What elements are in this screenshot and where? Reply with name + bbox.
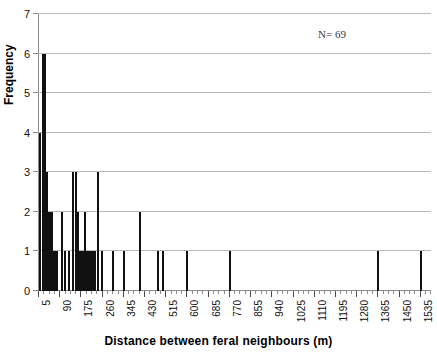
x-axis-tick-minor: [425, 291, 426, 294]
y-axis-tick: [33, 132, 38, 133]
x-axis-label: 1110: [318, 300, 328, 321]
bar: [94, 251, 96, 291]
bar: [61, 212, 63, 291]
x-axis-tick-minor: [346, 291, 347, 294]
x-axis-tick-minor: [112, 291, 113, 294]
x-axis-tick-major: [293, 291, 294, 297]
bar: [68, 251, 70, 291]
bar: [420, 251, 422, 291]
bar: [162, 251, 164, 291]
y-axis-label: 7: [24, 9, 30, 20]
x-axis-tick-minor: [303, 291, 304, 294]
y-axis-tick: [33, 13, 38, 14]
x-axis-tick-major: [420, 291, 421, 297]
bar: [377, 251, 379, 291]
y-axis-label: 3: [24, 167, 30, 178]
x-axis-label: 260: [106, 300, 116, 317]
x-axis-tick-major: [59, 291, 60, 297]
x-axis-tick-minor: [330, 291, 331, 294]
x-axis-tick-minor: [192, 291, 193, 294]
x-axis-tick-minor: [430, 291, 431, 294]
x-axis-tick-minor: [70, 291, 71, 294]
x-axis-tick-minor: [155, 291, 156, 294]
bar: [112, 251, 114, 291]
x-axis-tick-major: [271, 291, 272, 297]
x-axis-title: Distance between feral neighbours (m): [0, 334, 437, 348]
x-axis-tick-minor: [393, 291, 394, 294]
y-axis-tick: [33, 250, 38, 251]
x-axis-tick-major: [80, 291, 81, 297]
x-axis-label: 1195: [339, 300, 349, 322]
bar: [186, 251, 188, 291]
x-axis-tick-minor: [239, 291, 240, 294]
gridline: [38, 92, 431, 93]
y-axis-label: 0: [24, 286, 30, 297]
x-axis-tick-minor: [91, 291, 92, 294]
x-axis-tick-major: [144, 291, 145, 297]
y-axis-label: 1: [24, 246, 30, 257]
x-axis-tick-minor: [287, 291, 288, 294]
x-axis-tick-minor: [255, 291, 256, 294]
x-axis-tick-minor: [367, 291, 368, 294]
x-axis-tick-minor: [213, 291, 214, 294]
x-axis-label: 1535: [424, 300, 434, 322]
x-axis-label: 770: [233, 300, 243, 317]
x-axis-tick-major: [377, 291, 378, 297]
bar: [123, 251, 125, 291]
histogram-chart: 01234567 5901752603454305156006857708559…: [0, 0, 437, 356]
x-axis-tick-minor: [197, 291, 198, 294]
x-axis-tick-major: [399, 291, 400, 297]
x-axis-tick-minor: [107, 291, 108, 294]
x-axis-tick-major: [165, 291, 166, 297]
x-axis-tick-major: [356, 291, 357, 297]
x-axis-tick-minor: [261, 291, 262, 294]
x-axis-tick-minor: [383, 291, 384, 294]
x-axis-label: 1280: [360, 300, 370, 322]
x-axis-tick-major: [102, 291, 103, 297]
x-axis-tick-minor: [266, 291, 267, 294]
bar: [72, 172, 74, 291]
y-axis-label: 4: [24, 127, 30, 138]
x-axis-tick-minor: [409, 291, 410, 294]
bar: [56, 251, 58, 291]
x-axis-tick-minor: [282, 291, 283, 294]
bar: [97, 172, 99, 291]
x-axis-tick-minor: [324, 291, 325, 294]
gridline: [38, 132, 431, 133]
x-axis-tick-minor: [75, 291, 76, 294]
x-axis-tick-major: [123, 291, 124, 297]
x-axis-tick-minor: [414, 291, 415, 294]
x-axis-tick-minor: [176, 291, 177, 294]
x-axis-tick-minor: [181, 291, 182, 294]
y-axis-title: Frequency: [2, 44, 16, 105]
x-axis-tick-minor: [139, 291, 140, 294]
y-axis-tick: [33, 171, 38, 172]
bar: [157, 251, 159, 291]
x-axis-tick-minor: [361, 291, 362, 294]
x-axis-tick-minor: [388, 291, 389, 294]
y-axis-tick: [33, 92, 38, 93]
x-axis-tick-minor: [308, 291, 309, 294]
x-axis-tick-minor: [340, 291, 341, 294]
x-axis-tick-minor: [54, 291, 55, 294]
x-axis-label: 685: [212, 300, 222, 317]
x-axis-label: 430: [148, 300, 158, 317]
x-axis-tick-minor: [118, 291, 119, 294]
sample-size-annotation: N= 69: [318, 28, 346, 40]
x-axis-label: 515: [169, 300, 179, 317]
x-axis-tick-minor: [319, 291, 320, 294]
x-axis-label: 345: [127, 300, 137, 317]
x-axis-tick-minor: [171, 291, 172, 294]
x-axis-tick-minor: [128, 291, 129, 294]
x-axis-tick-minor: [234, 291, 235, 294]
y-axis-tick: [33, 53, 38, 54]
x-axis-label: 1450: [403, 300, 413, 322]
x-axis-label: 5: [42, 300, 52, 306]
x-axis-tick-minor: [404, 291, 405, 294]
x-axis-label: 600: [190, 300, 200, 317]
x-axis-label: 940: [275, 300, 285, 317]
y-axis-tick: [33, 211, 38, 212]
x-axis-tick-minor: [351, 291, 352, 294]
x-axis-tick-minor: [65, 291, 66, 294]
x-axis-tick-minor: [96, 291, 97, 294]
